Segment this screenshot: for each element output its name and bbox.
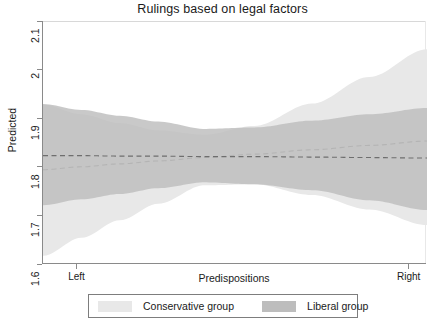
- y-tick-label: 2: [29, 73, 41, 79]
- y-tick-label: 1.9: [29, 125, 41, 140]
- legend-item-conservative: Conservative group: [98, 300, 234, 312]
- y-tick-label: 1.8: [29, 174, 41, 189]
- legend-swatch-icon-liberal: [262, 301, 296, 312]
- y-axis-label: Predicted: [6, 90, 18, 170]
- plot-area: [42, 21, 426, 264]
- chart-legend: Conservative group Liberal group: [88, 294, 358, 318]
- y-tick-label: 1.7: [29, 223, 41, 238]
- y-tick-mark: [37, 118, 42, 119]
- y-tick-mark: [37, 264, 42, 265]
- y-tick-mark: [37, 21, 42, 22]
- legend-label-conservative: Conservative group: [143, 300, 234, 312]
- y-tick-mark: [37, 166, 42, 167]
- legend-swatch-icon-conservative: [98, 301, 132, 312]
- legend-label-liberal: Liberal group: [307, 300, 368, 312]
- y-tick-label: 2.1: [29, 28, 41, 43]
- legend-item-liberal: Liberal group: [262, 300, 368, 312]
- plot-svg: [43, 21, 427, 264]
- x-tick-mark: [408, 264, 409, 269]
- y-tick-label: 1.6: [29, 271, 41, 286]
- y-tick-mark: [37, 215, 42, 216]
- chart-root: Rulings based on legal factors Predicted…: [0, 0, 445, 323]
- chart-title: Rulings based on legal factors: [0, 2, 445, 16]
- x-tick-mark: [76, 264, 77, 269]
- y-tick-mark: [37, 69, 42, 70]
- x-axis-label: Predispositions: [42, 272, 426, 284]
